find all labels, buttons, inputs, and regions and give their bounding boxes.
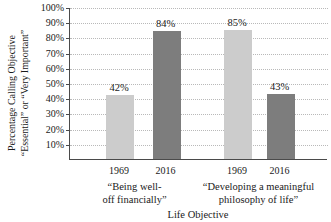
group-label-line-2: philosophy of life” [186, 194, 331, 207]
y-axis-title-line-1: Percentage Calling Objective [5, 8, 18, 178]
y-axis-tick-mark [66, 54, 70, 55]
bar-value-label: 85% [217, 17, 257, 28]
y-axis-tick-mark [66, 130, 70, 131]
y-axis-tick-mark [66, 23, 70, 24]
y-axis-tick-mark [66, 84, 70, 85]
group-label-line-1: “Being well- [82, 181, 187, 194]
y-axis-tick-mark [66, 38, 70, 39]
y-axis-tick-label: 90% [28, 18, 64, 28]
x-axis-group-label: “Being well-off financially” [82, 181, 187, 206]
y-axis-tick-mark [66, 8, 70, 9]
bar-chart-figure: Percentage Calling Objective “Essential”… [0, 0, 331, 222]
x-axis-tick-label: 1969 [94, 165, 144, 176]
bar-value-label: 84% [146, 18, 186, 29]
y-axis-tick-mark [66, 145, 70, 146]
bar-value-label: 43% [260, 81, 300, 92]
y-axis-tick-mark [66, 114, 70, 115]
y-axis-tick-label: 80% [28, 33, 64, 43]
gridline [70, 38, 328, 39]
gridline [70, 69, 328, 70]
gridline [70, 54, 328, 55]
gridline [70, 8, 328, 9]
bar[interactable] [106, 95, 134, 159]
y-axis-tick-mark [66, 69, 70, 70]
x-axis-tick-label: 2016 [141, 165, 191, 176]
y-axis-tick-label: 100% [28, 3, 64, 13]
y-axis-tick-label: 50% [28, 79, 64, 89]
bar[interactable] [153, 31, 181, 159]
x-axis-group-label: “Developing a meaningfulphilosophy of li… [186, 181, 331, 206]
group-label-line-1: “Developing a meaningful [186, 181, 331, 194]
y-axis-tick-label: 60% [28, 64, 64, 74]
gridline [70, 23, 328, 24]
y-axis-tick-label: 40% [28, 94, 64, 104]
y-axis-tick-label: 70% [28, 49, 64, 59]
group-label-line-2: off financially” [82, 194, 187, 207]
x-axis-tick-label: 2016 [255, 165, 305, 176]
y-axis-tick-label: 20% [28, 125, 64, 135]
y-axis-tick-mark [66, 99, 70, 100]
bar[interactable] [224, 30, 252, 159]
y-axis-tick-label: 10% [28, 140, 64, 150]
bar[interactable] [267, 94, 295, 159]
bar-value-label: 42% [99, 82, 139, 93]
x-axis-title: Life Objective [69, 209, 327, 221]
y-axis-tick-label: 30% [28, 109, 64, 119]
